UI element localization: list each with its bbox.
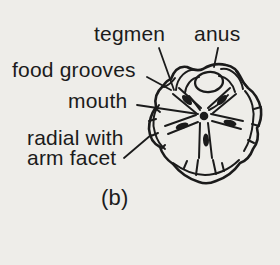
food-grooves [165, 88, 243, 175]
figure-panel: tegmen anus food grooves mouth radial wi… [0, 0, 280, 265]
label-tegmen: tegmen [94, 24, 165, 44]
anus-opening [194, 70, 224, 93]
label-radial-with-arm-facet: radial with arm facet [27, 128, 124, 168]
mouth-opening [200, 112, 209, 121]
label-food-grooves: food grooves [12, 60, 136, 80]
figure-caption: (b) [101, 188, 129, 208]
label-mouth: mouth [68, 91, 127, 111]
label-anus: anus [194, 24, 240, 44]
food-grooves-leader-line [147, 77, 171, 90]
label-radial-line2: arm facet [27, 146, 116, 169]
arm-stem [196, 160, 216, 175]
radial-leader-line [124, 135, 151, 158]
